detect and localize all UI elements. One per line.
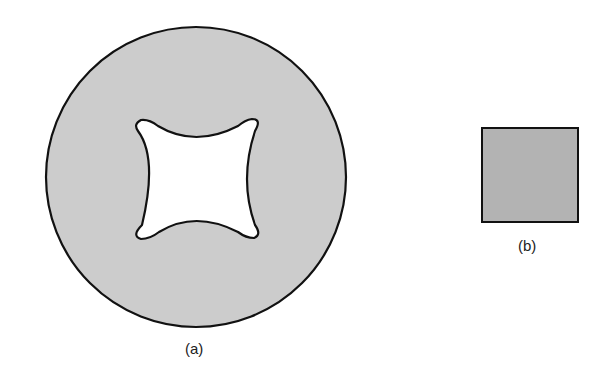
panel-a-label: (a) [185, 340, 203, 357]
panel-b-label: (b) [518, 237, 536, 254]
panel-b-square [482, 128, 578, 222]
panel-a-disk [46, 27, 346, 327]
figure-canvas [0, 0, 597, 378]
